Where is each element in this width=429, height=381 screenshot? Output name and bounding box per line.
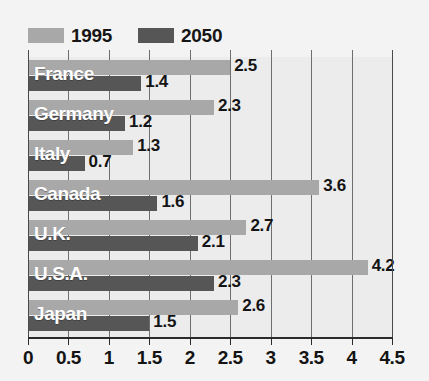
x-axis-tick-label: 4.5 xyxy=(380,347,405,369)
chart-row: 2.61.5Japan xyxy=(28,297,392,337)
x-axis-tick-label: 1 xyxy=(104,347,114,369)
value-label: 1.5 xyxy=(153,314,176,329)
legend-swatch-2050 xyxy=(138,28,174,43)
bar-1995 xyxy=(28,260,368,275)
chart-row: 3.61.6Canada xyxy=(28,177,392,217)
value-label: 1.3 xyxy=(137,138,160,153)
bar-2050 xyxy=(28,116,125,131)
x-axis-tick xyxy=(271,339,272,345)
chart-row: 2.51.4France xyxy=(28,57,392,97)
x-axis-tick-label: 1.5 xyxy=(137,347,162,369)
bar-2050 xyxy=(28,156,85,171)
bar-1995 xyxy=(28,100,214,115)
x-axis-tick-label: 0.5 xyxy=(56,347,81,369)
chart-row: 2.72.1U.K. xyxy=(28,217,392,257)
value-label: 1.2 xyxy=(129,114,152,129)
value-label: 2.1 xyxy=(202,234,225,249)
x-axis-line xyxy=(28,337,393,339)
value-label: 2.3 xyxy=(218,98,241,113)
x-axis-tick xyxy=(230,339,231,345)
x-axis-tick-label: 2.5 xyxy=(218,347,243,369)
chart-legend: 1995 2050 xyxy=(28,22,222,48)
bar-2050 xyxy=(28,76,141,91)
chart-row: 2.31.2Germany xyxy=(28,97,392,137)
bar-1995 xyxy=(28,60,230,75)
x-axis-tick-label: 3 xyxy=(266,347,276,369)
bar-1995 xyxy=(28,300,238,315)
x-axis-tick xyxy=(149,339,150,345)
value-label: 2.6 xyxy=(242,298,265,313)
bar-2050 xyxy=(28,236,198,251)
x-axis-tick xyxy=(109,339,110,345)
bar-2050 xyxy=(28,196,157,211)
legend-label-1995: 1995 xyxy=(71,26,112,45)
legend-label-2050: 2050 xyxy=(181,26,222,45)
bar-chart: 1995 2050 2.51.4France2.31.2Germany1.30.… xyxy=(0,0,429,381)
chart-row: 4.22.3U.S.A. xyxy=(28,257,392,297)
x-axis-tick-label: 2 xyxy=(185,347,195,369)
bar-1995 xyxy=(28,140,133,155)
value-label: 0.7 xyxy=(89,154,112,169)
legend-entry-1995: 1995 xyxy=(28,26,112,45)
plot-left-border xyxy=(28,50,29,340)
x-axis-tick xyxy=(311,339,312,345)
chart-row: 1.30.7Italy xyxy=(28,137,392,177)
value-label: 2.3 xyxy=(218,274,241,289)
value-label: 1.6 xyxy=(161,194,184,209)
x-axis-tick-label: 0 xyxy=(23,347,33,369)
legend-swatch-1995 xyxy=(28,28,64,43)
value-label: 1.4 xyxy=(145,74,168,89)
value-label: 2.7 xyxy=(250,218,273,233)
legend-entry-2050: 2050 xyxy=(138,26,222,45)
bar-2050 xyxy=(28,276,214,291)
value-label: 2.5 xyxy=(234,58,257,73)
x-axis-tick xyxy=(190,339,191,345)
bar-2050 xyxy=(28,316,149,331)
plot-right-border xyxy=(392,50,393,340)
value-label: 3.6 xyxy=(323,178,346,193)
x-axis-tick-label: 4 xyxy=(347,347,357,369)
x-axis-tick-label: 3.5 xyxy=(299,347,324,369)
x-axis-tick xyxy=(68,339,69,345)
x-axis-tick xyxy=(28,339,29,345)
x-axis-tick xyxy=(392,339,393,345)
x-axis-tick xyxy=(352,339,353,345)
plot-area: 2.51.4France2.31.2Germany1.30.7Italy3.61… xyxy=(28,57,392,337)
